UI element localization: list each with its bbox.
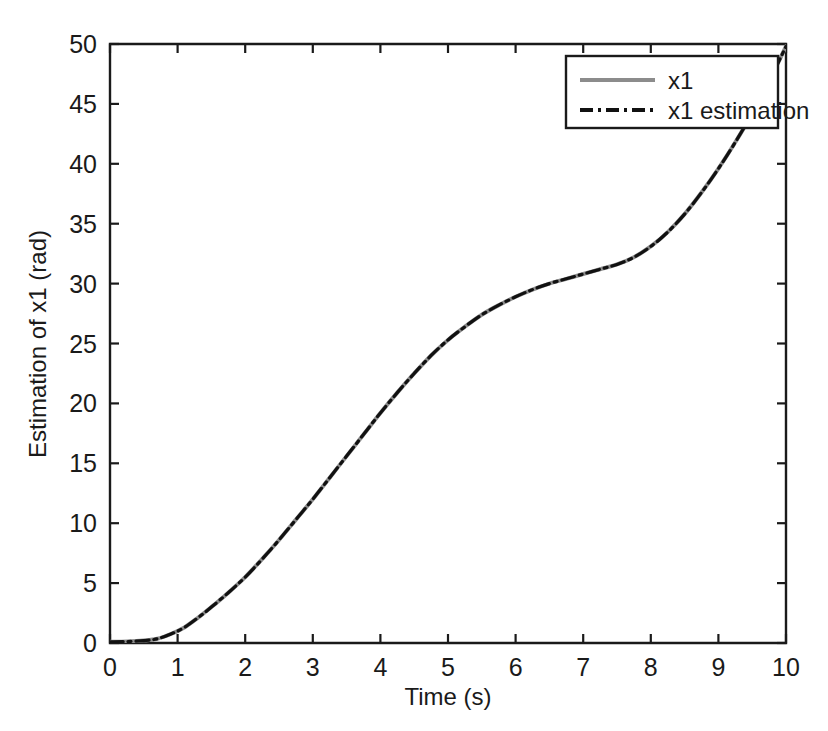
y-tick-label: 0 — [83, 629, 97, 657]
x-tick-label: 6 — [509, 653, 523, 681]
y-tick-label: 30 — [69, 270, 97, 298]
legend[interactable]: x1 x1 estimation — [566, 56, 809, 128]
x-tick-label: 5 — [441, 653, 455, 681]
x-tick-label: 10 — [772, 653, 800, 681]
x-tick-label: 1 — [171, 653, 185, 681]
y-tick-label: 40 — [69, 150, 97, 178]
x-tick-label: 2 — [238, 653, 252, 681]
legend-label-x1: x1 — [668, 67, 693, 94]
x-tick-label: 3 — [306, 653, 320, 681]
x-tick-label: 4 — [373, 653, 387, 681]
figure-canvas: 012345678910 05101520253035404550 Time (… — [0, 0, 828, 731]
y-tick-label: 10 — [69, 509, 97, 537]
y-tick-label: 25 — [69, 330, 97, 358]
y-tick-label: 50 — [69, 30, 97, 58]
chart-plot: 012345678910 05101520253035404550 Time (… — [0, 0, 828, 731]
series-line-x1-estimation — [110, 46, 786, 641]
series-line-x1 — [110, 46, 786, 641]
x-axis-title: Time (s) — [404, 683, 491, 710]
x-tick-labels: 012345678910 — [103, 653, 800, 681]
y-tick-label: 5 — [83, 569, 97, 597]
data-series-group — [110, 46, 786, 641]
y-tick-label: 15 — [69, 449, 97, 477]
tick-marks-group — [110, 44, 786, 643]
x-tick-label: 8 — [644, 653, 658, 681]
y-tick-label: 20 — [69, 389, 97, 417]
y-tick-label: 35 — [69, 210, 97, 238]
legend-label-x1-estimation: x1 estimation — [668, 97, 809, 124]
x-tick-label: 9 — [711, 653, 725, 681]
x-tick-label: 7 — [576, 653, 590, 681]
y-axis-title: Estimation of x1 (rad) — [24, 230, 51, 458]
x-tick-label: 0 — [103, 653, 117, 681]
y-tick-label: 45 — [69, 90, 97, 118]
axes-frame — [110, 44, 786, 643]
y-tick-labels: 05101520253035404550 — [69, 30, 97, 657]
